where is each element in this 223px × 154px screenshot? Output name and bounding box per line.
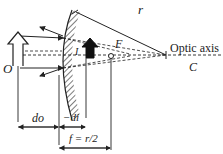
image-distance-label: −di bbox=[63, 112, 79, 123]
focal-length-label: f = r/2 bbox=[69, 133, 98, 144]
image-label: I bbox=[75, 47, 78, 57]
ray-diagram bbox=[0, 0, 223, 154]
focal-point-label: F bbox=[115, 38, 122, 50]
object-distance-label: do bbox=[32, 112, 44, 124]
center-label: C bbox=[189, 61, 197, 73]
radius-label: r bbox=[138, 3, 143, 16]
focal-point-marker bbox=[109, 54, 114, 59]
optic-axis-label: Optic axis bbox=[170, 42, 219, 54]
object-label: O bbox=[3, 62, 12, 75]
mirror-body bbox=[63, 10, 80, 120]
